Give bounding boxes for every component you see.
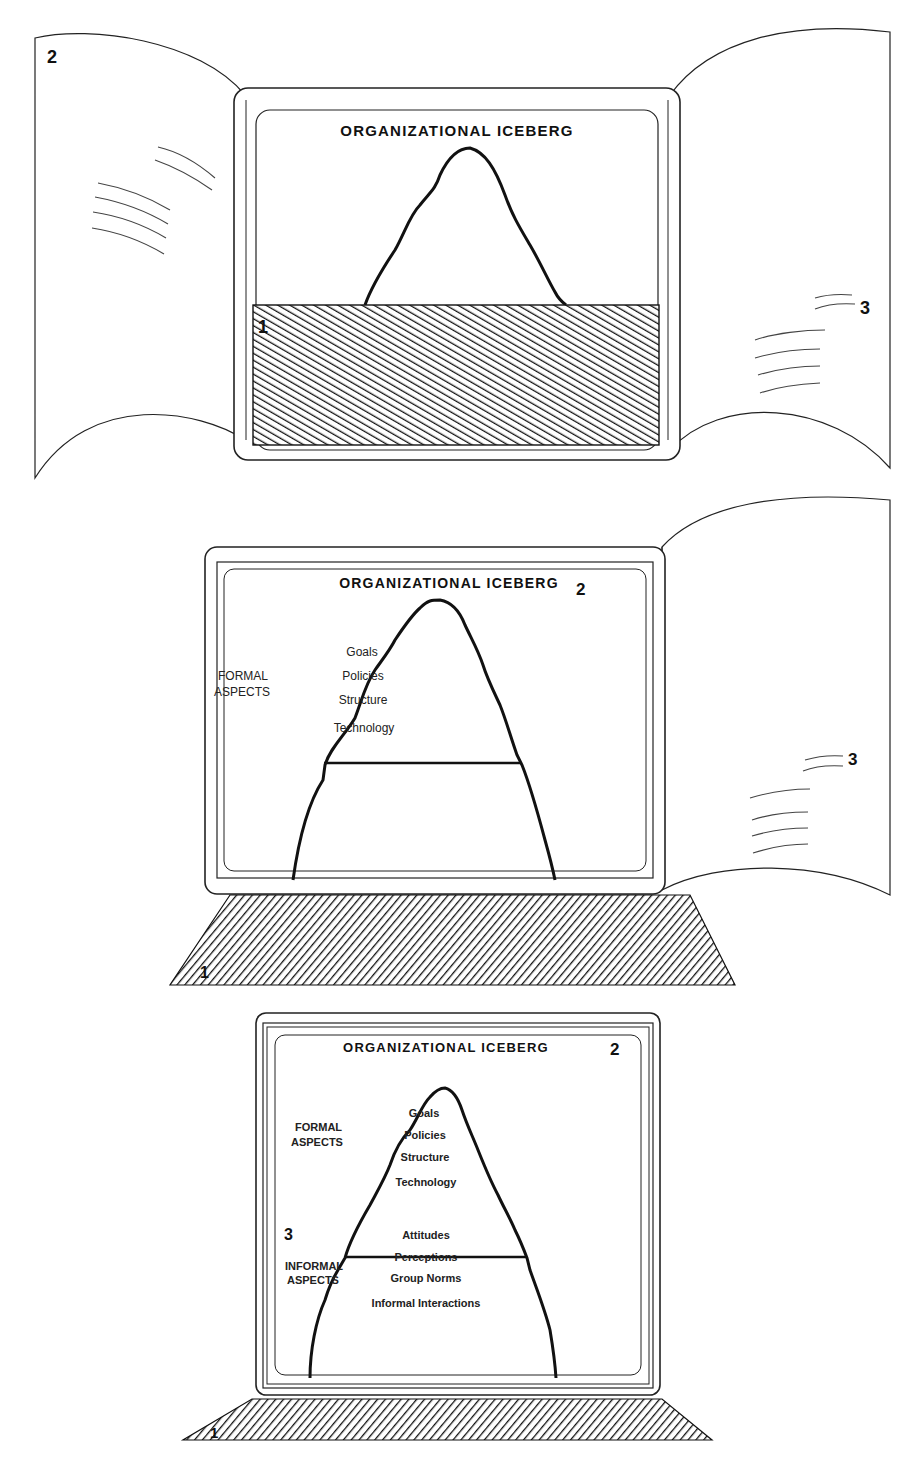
screen [224,569,646,871]
iceberg-title: ORGANIZATIONAL ICEBERG [339,575,559,591]
panel-3: ORGANIZATIONAL ICEBERG 2 FORMAL ASPECTS … [183,1013,712,1441]
callout-2: 2 [610,1040,619,1059]
formal-item-goals: Goals [409,1107,440,1119]
panel-1: ORGANIZATIONAL ICEBERG 1 2 3 [35,29,890,478]
formal-item-structure: Structure [339,693,388,707]
formal-aspects-label-2: ASPECTS [214,685,270,699]
informal-aspects-label: INFORMAL [285,1260,343,1272]
callout-3: 3 [284,1226,293,1243]
callout-1: 1 [210,1424,218,1441]
formal-aspects-label: FORMAL [295,1121,342,1133]
formal-item-structure: Structure [401,1151,450,1163]
base-panel [183,1399,712,1440]
formal-aspects-label: FORMAL [218,669,268,683]
formal-item-technology: Technology [396,1176,458,1188]
formal-item-goals: Goals [346,645,377,659]
callout-2: 2 [576,580,585,599]
base-panel [170,895,735,985]
callout-3: 3 [848,750,857,769]
formal-item-technology: Technology [334,721,395,735]
callout-1: 1 [258,317,268,337]
formal-item-policies: Policies [342,669,383,683]
callout-2: 2 [47,47,57,67]
informal-item-perceptions: Perceptions [395,1251,458,1263]
informal-item-informal-interactions: Informal Interactions [372,1297,481,1309]
informal-item-attitudes: Attitudes [402,1229,450,1241]
right-flap [662,497,890,895]
screen [275,1035,641,1375]
formal-aspects-label-2: ASPECTS [291,1136,343,1148]
informal-item-group-norms: Group Norms [391,1272,462,1284]
left-flap [35,34,245,478]
informal-aspects-label-2: ASPECTS [287,1274,339,1286]
callout-1: 1 [200,964,209,981]
right-flap [670,29,890,468]
formal-item-policies: Policies [404,1129,446,1141]
cover-panel [253,305,659,445]
iceberg-title: ORGANIZATIONAL ICEBERG [343,1040,549,1055]
iceberg-title: ORGANIZATIONAL ICEBERG [340,122,573,139]
iceberg-figure: ORGANIZATIONAL ICEBERG 1 2 3 ORGANIZATIO… [0,0,905,1465]
callout-3: 3 [860,298,870,318]
